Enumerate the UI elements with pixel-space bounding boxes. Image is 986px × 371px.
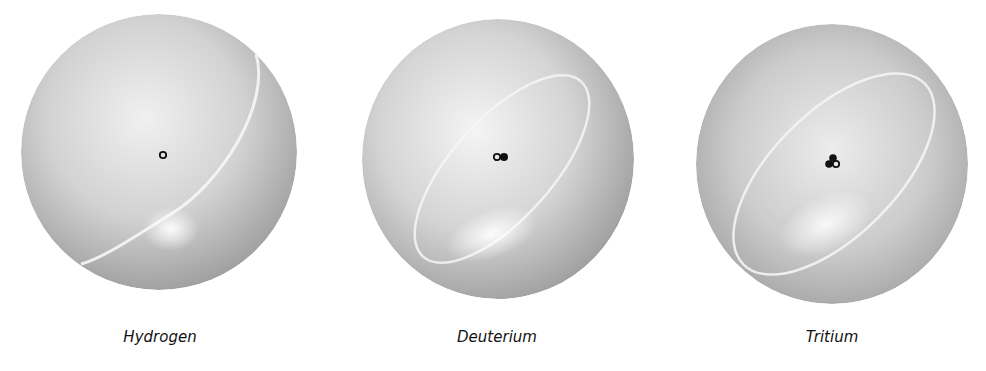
neutron-icon <box>500 153 508 161</box>
atom-label: Deuterium <box>397 328 597 346</box>
proton-icon <box>494 154 500 160</box>
nucleus <box>823 152 845 172</box>
nucleus <box>491 150 513 164</box>
neutron-icon <box>825 160 833 168</box>
nucleus <box>156 148 170 162</box>
atom-label: Tritium <box>732 328 932 346</box>
proton-icon <box>160 152 166 158</box>
proton-icon <box>833 161 839 167</box>
atom-label: Hydrogen <box>60 328 260 346</box>
